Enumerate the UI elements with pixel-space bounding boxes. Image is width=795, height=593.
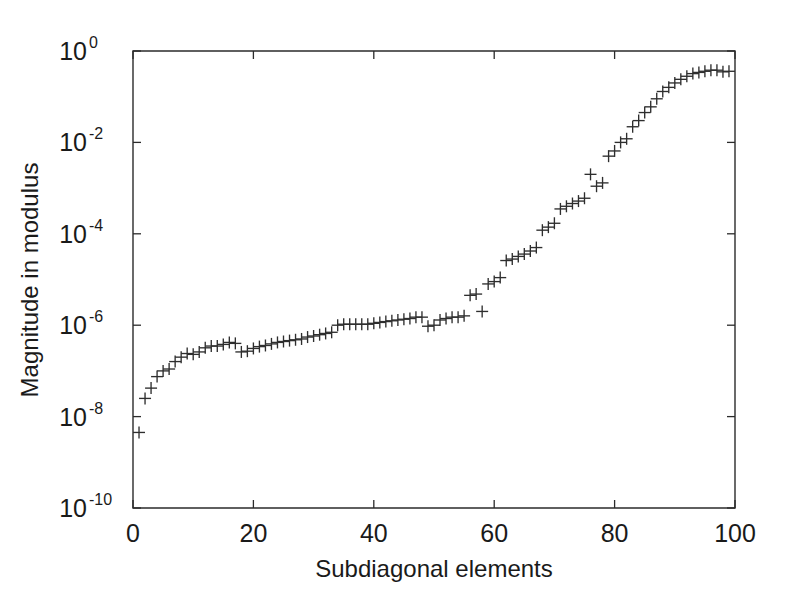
x-tick-label: 0 <box>126 519 140 547</box>
data-point <box>464 289 476 301</box>
data-point <box>609 145 621 157</box>
data-point <box>434 314 446 326</box>
data-point <box>560 200 572 212</box>
data-point <box>163 363 175 375</box>
data-point <box>645 101 657 113</box>
data-point <box>723 65 735 77</box>
data-point <box>374 316 386 328</box>
data-point <box>603 150 615 162</box>
data-point <box>386 315 398 327</box>
data-point <box>247 342 259 354</box>
data-point <box>265 338 277 350</box>
data-point <box>681 70 693 82</box>
data-point <box>416 311 428 323</box>
y-tick-label-exponent: -8 <box>89 400 103 417</box>
data-point <box>524 245 536 257</box>
data-point <box>302 331 314 343</box>
data-point <box>566 198 578 210</box>
x-tick-label: 60 <box>480 519 508 547</box>
data-point <box>518 248 530 260</box>
data-point <box>627 121 639 133</box>
y-tick-label-mantissa: 10 <box>59 311 87 339</box>
data-point <box>687 68 699 80</box>
data-point <box>259 339 271 351</box>
y-tick-label-exponent: 0 <box>89 34 98 51</box>
data-point <box>187 348 199 360</box>
data-point <box>332 319 344 331</box>
data-point <box>585 168 597 180</box>
data-point <box>470 288 482 300</box>
y-tick-label-exponent: -2 <box>89 125 103 142</box>
data-point <box>572 195 584 207</box>
y-tick-label-exponent: -4 <box>89 217 103 234</box>
y-tick-label-exponent: -6 <box>89 308 103 325</box>
data-point <box>512 250 524 262</box>
data-point <box>440 313 452 325</box>
data-point <box>458 310 470 322</box>
data-point <box>428 319 440 331</box>
data-point <box>235 346 247 358</box>
data-point <box>217 338 229 350</box>
data-point <box>639 107 651 119</box>
data-point <box>597 177 609 189</box>
data-point <box>151 371 163 383</box>
data-point <box>500 255 512 267</box>
data-point <box>422 320 434 332</box>
data-point <box>530 242 542 254</box>
data-point <box>308 330 320 342</box>
data-point <box>368 317 380 329</box>
plot-axes <box>133 51 735 508</box>
data-point <box>579 192 591 204</box>
data-point <box>133 426 145 438</box>
y-tick-label-mantissa: 10 <box>59 494 87 522</box>
data-point <box>404 313 416 325</box>
x-tick-label: 20 <box>239 519 267 547</box>
data-point <box>651 93 663 105</box>
data-point <box>253 341 265 353</box>
data-point <box>296 333 308 345</box>
data-point <box>278 335 290 347</box>
axis-frame <box>133 51 735 508</box>
data-point <box>482 278 494 290</box>
data-point <box>711 64 723 76</box>
y-tick-label-mantissa: 10 <box>59 220 87 248</box>
y-tick-label-mantissa: 10 <box>59 403 87 431</box>
y-axis-title: Magnitude in modulus <box>16 163 43 398</box>
data-point <box>591 180 603 192</box>
data-markers <box>133 64 735 438</box>
data-point <box>633 115 645 127</box>
data-point <box>284 335 296 347</box>
data-point <box>506 253 518 265</box>
data-point <box>326 326 338 338</box>
data-point <box>139 392 151 404</box>
data-point <box>380 316 392 328</box>
y-tick-label-mantissa: 10 <box>59 37 87 65</box>
data-point <box>241 345 253 357</box>
data-point <box>271 336 283 348</box>
data-point <box>693 66 705 78</box>
data-point <box>476 305 488 317</box>
scatter-plot: 02040608010010010-210-410-610-810-10 Sub… <box>0 0 795 593</box>
data-point <box>392 314 404 326</box>
data-point <box>211 340 223 352</box>
x-axis-title: Subdiagonal elements <box>315 555 553 582</box>
data-point <box>290 334 302 346</box>
data-point <box>398 313 410 325</box>
x-tick-label: 100 <box>714 519 756 547</box>
figure-canvas: 02040608010010010-210-410-610-810-10 Sub… <box>0 0 795 593</box>
data-point <box>229 337 241 349</box>
data-point <box>314 329 326 341</box>
data-point <box>157 365 169 377</box>
data-point <box>554 203 566 215</box>
x-tick-label: 80 <box>601 519 629 547</box>
data-point <box>320 327 332 339</box>
data-point <box>362 318 374 330</box>
tick-marks <box>133 51 735 508</box>
data-point <box>699 65 711 77</box>
data-point <box>452 311 464 323</box>
y-tick-label-mantissa: 10 <box>59 128 87 156</box>
y-tick-label-exponent: -10 <box>89 491 112 508</box>
x-tick-label: 40 <box>360 519 388 547</box>
data-point <box>145 382 157 394</box>
data-point <box>223 336 235 348</box>
